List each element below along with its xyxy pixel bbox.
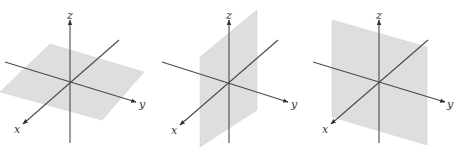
- figure-canvas: z y x z y x z y x: [0, 0, 455, 164]
- z-label: z: [375, 9, 382, 22]
- y-label: y: [138, 98, 146, 111]
- x-label: x: [322, 123, 329, 136]
- panel-1: z y x: [0, 9, 146, 143]
- z-label: z: [66, 9, 73, 22]
- z-label: z: [225, 9, 232, 22]
- y-label: y: [290, 98, 298, 111]
- x-label: x: [14, 123, 21, 136]
- y-label: y: [446, 98, 454, 111]
- panel-3: z y x: [313, 9, 454, 145]
- x-label: x: [171, 124, 178, 137]
- panel-2: z y x: [162, 9, 298, 147]
